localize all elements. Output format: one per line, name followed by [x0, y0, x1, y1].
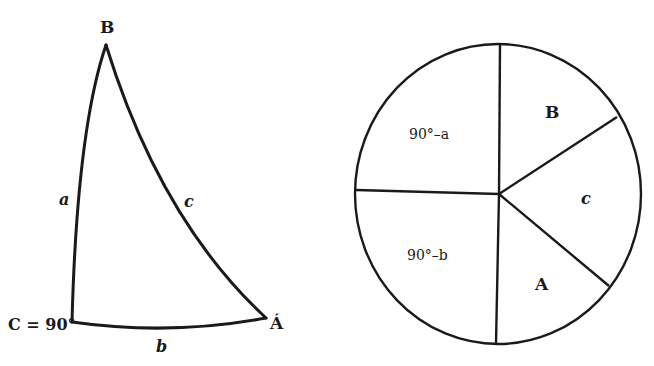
- sector-90-minus-a: 90°–a: [409, 126, 449, 142]
- vertex-b-label: B: [100, 17, 114, 37]
- side-a-arc: [72, 45, 106, 322]
- sector-90-minus-b: 90°–b: [407, 247, 448, 263]
- divider-top: [499, 44, 500, 194]
- divider-upper-right: [499, 117, 617, 194]
- sector-A: A: [534, 274, 549, 294]
- spherical-triangle: [72, 45, 266, 328]
- divider-bottom: [496, 194, 499, 344]
- side-a-label: a: [59, 190, 69, 209]
- divider-left: [356, 190, 499, 194]
- side-c-arc: [106, 45, 266, 318]
- napier-circle: [355, 44, 641, 344]
- divider-lower-right: [499, 194, 609, 286]
- sector-B: B: [545, 102, 559, 122]
- napier-rules-figure: B C = 90° Á a b c 90°–a B c A 90°–b: [0, 0, 654, 366]
- sector-c: c: [581, 189, 591, 208]
- vertex-c-label: C = 90°: [8, 315, 76, 334]
- side-b-label: b: [156, 337, 167, 356]
- vertex-a-label: Á: [269, 313, 284, 333]
- side-b-arc: [72, 318, 266, 328]
- side-c-label: c: [184, 192, 194, 211]
